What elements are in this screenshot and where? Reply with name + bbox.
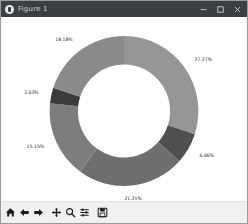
home-button[interactable]: [4, 205, 17, 220]
pan-button[interactable]: [50, 205, 63, 220]
maximize-button[interactable]: [212, 1, 229, 17]
slice-label: 3.03%: [24, 90, 39, 95]
window-title: Figure 1: [18, 1, 195, 17]
close-button[interactable]: [229, 1, 246, 17]
figure-window: Figure 1: [0, 0, 248, 224]
slice-label: 18.18%: [55, 37, 73, 42]
slice-label: 6.06%: [200, 153, 215, 158]
configure-subplots-button[interactable]: [78, 205, 91, 220]
title-bar: Figure 1: [1, 1, 247, 17]
donut-chart-svg: 27.27% 6.06% 21.21% 15.15% 3.03% 18.18%: [1, 17, 247, 201]
save-button[interactable]: [96, 205, 109, 220]
slice-label: 15.15%: [27, 144, 45, 149]
zoom-button[interactable]: [64, 205, 77, 220]
donut-slice[interactable]: [53, 36, 124, 97]
donut-slice[interactable]: [124, 36, 198, 134]
matplotlib-icon: [5, 5, 14, 14]
donut-slices: [50, 36, 199, 186]
slice-label: 27.27%: [195, 57, 213, 62]
slice-label: 21.21%: [124, 196, 142, 201]
minimize-button[interactable]: [195, 1, 212, 17]
forward-button[interactable]: [32, 205, 45, 220]
donut-chart: 27.27% 6.06% 21.21% 15.15% 3.03% 18.18%: [1, 17, 247, 201]
back-button[interactable]: [18, 205, 31, 220]
figure-canvas[interactable]: 27.27% 6.06% 21.21% 15.15% 3.03% 18.18%: [1, 17, 247, 201]
window-controls: [195, 1, 246, 17]
navigation-toolbar: [1, 201, 247, 223]
